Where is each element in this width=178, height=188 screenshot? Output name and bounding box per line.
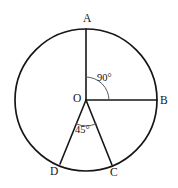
circle-geometry-figure: A B C D O 90° 45° bbox=[0, 0, 178, 188]
radius-oc bbox=[86, 100, 112, 165]
point-label-a: A bbox=[83, 13, 91, 25]
angle-label-90-degrees: 90° bbox=[97, 73, 112, 84]
angle-label-45-degrees: 45° bbox=[75, 125, 90, 136]
point-label-c: C bbox=[110, 167, 118, 179]
point-label-b: B bbox=[160, 95, 168, 107]
point-label-d: D bbox=[50, 166, 58, 178]
geometry-canvas bbox=[0, 0, 178, 188]
point-label-o-center: O bbox=[73, 93, 81, 105]
